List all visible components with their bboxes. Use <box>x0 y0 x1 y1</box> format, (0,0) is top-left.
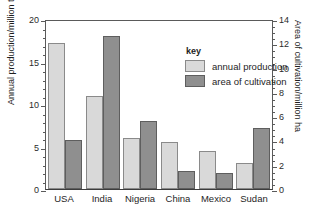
legend-item-annual-production: annual production <box>185 60 288 72</box>
chart-title-cropped <box>0 0 315 9</box>
legend-label-area-of-cultivation: area of cultivation <box>212 76 286 87</box>
y-left-minor-tick <box>43 89 46 90</box>
y-right-minor-tick <box>272 112 275 113</box>
y-right-minor-tick <box>272 39 275 40</box>
y-left-tick-label: 5 <box>34 144 39 153</box>
legend-title: key <box>185 46 288 56</box>
y-left-tick-label: 0 <box>34 186 39 195</box>
y-left-minor-tick <box>43 132 46 133</box>
y-left-minor-tick <box>43 55 46 56</box>
bar-annual-production[interactable] <box>236 163 253 189</box>
y-left-minor-tick <box>43 183 46 184</box>
y-left-minor-tick <box>43 98 46 99</box>
y-right-minor-tick <box>272 130 275 131</box>
bar-area-of-cultivation[interactable] <box>103 36 120 189</box>
y-left-minor-tick <box>43 115 46 116</box>
y-right-minor-tick <box>272 149 275 150</box>
y-right-major-tick <box>272 118 277 119</box>
y-left-major-tick <box>41 106 46 107</box>
x-axis-label: China <box>159 192 197 212</box>
y-left-tick-label: 20 <box>29 16 39 25</box>
y-left-tick-label: 10 <box>29 101 39 110</box>
y-right-minor-tick <box>272 179 275 180</box>
y-left-minor-tick <box>43 38 46 39</box>
y-right-minor-tick <box>272 173 275 174</box>
bar-area-of-cultivation[interactable] <box>178 171 195 189</box>
y-left-minor-tick <box>43 30 46 31</box>
y-right-minor-tick <box>272 185 275 186</box>
y-right-tick-label: 6 <box>279 113 284 122</box>
bar-area-of-cultivation[interactable] <box>65 140 82 189</box>
y-left-major-tick <box>41 21 46 22</box>
y-right-minor-tick <box>272 124 275 125</box>
y-right-tick-label: 14 <box>279 16 289 25</box>
y-right-major-tick <box>272 167 277 168</box>
legend-item-area-of-cultivation: area of cultivation <box>185 75 288 87</box>
chart-legend: key annual production area of cultivatio… <box>185 46 288 90</box>
y-right-minor-tick <box>272 106 275 107</box>
bar-group <box>121 21 159 189</box>
bar-annual-production[interactable] <box>161 142 178 189</box>
x-axis-label: USA <box>45 192 83 212</box>
legend-swatch-annual-production <box>185 60 205 72</box>
x-axis-label: Nigeria <box>121 192 159 212</box>
y-right-major-tick <box>272 142 277 143</box>
y-left-minor-tick <box>43 81 46 82</box>
bar-annual-production[interactable] <box>123 138 140 189</box>
plot-area: 05101520 02468101214 key annual producti… <box>45 20 273 190</box>
x-axis-label: Mexico <box>197 192 235 212</box>
y-right-major-tick <box>272 94 277 95</box>
y-left-minor-tick <box>43 166 46 167</box>
y-left-minor-tick <box>43 123 46 124</box>
y-left-minor-tick <box>43 157 46 158</box>
y-right-tick-label: 0 <box>279 186 284 195</box>
bar-area-of-cultivation[interactable] <box>140 121 157 189</box>
bar-annual-production[interactable] <box>48 43 65 189</box>
y-left-major-tick <box>41 149 46 150</box>
y-right-minor-tick <box>272 100 275 101</box>
y-left-minor-tick <box>43 140 46 141</box>
y-left-tick-label: 15 <box>29 59 39 68</box>
y-left-major-tick <box>41 64 46 65</box>
y-right-minor-tick <box>272 155 275 156</box>
y-right-minor-tick <box>272 136 275 137</box>
x-axis-label: India <box>83 192 121 212</box>
y-right-major-tick <box>272 21 277 22</box>
y-right-minor-tick <box>272 33 275 34</box>
y-right-tick-label: 8 <box>279 89 284 98</box>
y-axis-left-title: Annual production/million tonnes <box>6 0 16 105</box>
y-left-minor-tick <box>43 47 46 48</box>
chart-root: Annual production/million tonnes Area of… <box>0 0 315 218</box>
bar-group <box>46 21 84 189</box>
bar-area-of-cultivation[interactable] <box>253 128 270 189</box>
bar-group <box>84 21 122 189</box>
x-axis-labels: USAIndiaNigeriaChinaMexicoSudan <box>45 192 273 212</box>
bar-annual-production[interactable] <box>199 151 216 189</box>
y-right-minor-tick <box>272 161 275 162</box>
y-right-tick-label: 4 <box>279 137 284 146</box>
bar-area-of-cultivation[interactable] <box>216 173 233 189</box>
y-left-minor-tick <box>43 72 46 73</box>
y-right-tick-label: 2 <box>279 162 284 171</box>
y-left-minor-tick <box>43 174 46 175</box>
x-axis-label: Sudan <box>235 192 273 212</box>
legend-label-annual-production: annual production <box>212 61 288 72</box>
bar-annual-production[interactable] <box>86 96 103 190</box>
y-right-minor-tick <box>272 27 275 28</box>
legend-swatch-area-of-cultivation <box>185 75 205 87</box>
y-axis-right-title: Area of cultivation/million ha <box>293 20 303 132</box>
